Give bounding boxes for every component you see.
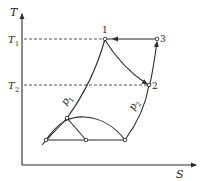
p2-label: p 2 bbox=[126, 98, 143, 114]
point-3-label: 3 bbox=[160, 34, 166, 44]
x-axis-label: S bbox=[176, 168, 184, 181]
y-axis-label: T bbox=[10, 6, 19, 19]
isobar-p2 bbox=[125, 85, 149, 140]
expansion-line bbox=[67, 118, 86, 140]
svg-text:1: 1 bbox=[15, 40, 19, 48]
axes bbox=[22, 14, 196, 165]
svg-text:2: 2 bbox=[15, 86, 19, 94]
t2-label: T 2 bbox=[8, 80, 19, 94]
point-1-label: 1 bbox=[102, 25, 108, 35]
point-2-label: 2 bbox=[152, 81, 158, 91]
point-liquid bbox=[44, 138, 48, 142]
point-1 bbox=[103, 37, 107, 41]
arrow-3-1-icon bbox=[112, 37, 118, 42]
point-mix bbox=[84, 138, 88, 142]
point-p1-dome bbox=[65, 116, 69, 120]
process-1-2 bbox=[105, 40, 147, 84]
isobar-p1 bbox=[42, 39, 105, 145]
state-points bbox=[44, 37, 159, 142]
point-2 bbox=[147, 83, 151, 87]
point-vapor bbox=[123, 138, 127, 142]
t1-label: T 1 bbox=[8, 34, 19, 48]
p1-label: p 1 bbox=[59, 93, 76, 109]
ts-diagram: T S T 1 T 2 1 2 3 p 1 bbox=[0, 0, 208, 181]
point-3 bbox=[155, 37, 159, 41]
process-2-3 bbox=[150, 42, 157, 84]
